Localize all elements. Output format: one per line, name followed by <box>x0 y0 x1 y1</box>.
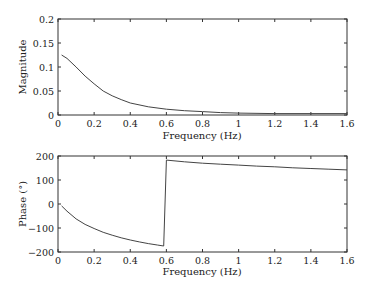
x-tick-label: 0.8 <box>195 118 210 129</box>
phase-plot: 00.20.40.60.811.21.41.6 −200−1000100200 … <box>17 151 355 278</box>
phase-curve <box>62 160 347 246</box>
y-axis-ticks: 00.050.10.150.2 <box>33 14 347 121</box>
x-tick-label: 0 <box>55 255 61 266</box>
x-tick-label: 0 <box>55 118 61 129</box>
plot-frame <box>58 19 347 115</box>
x-tick-label: 0.6 <box>159 255 174 266</box>
bode-figure: 00.20.40.60.811.21.41.6 00.050.10.150.2 … <box>0 0 374 293</box>
y-tick-label: 0 <box>48 110 54 121</box>
plot-frame <box>58 156 347 252</box>
x-axis-ticks: 00.20.40.60.811.21.41.6 <box>55 156 355 266</box>
y-tick-label: 100 <box>36 175 54 186</box>
y-tick-label: 0.1 <box>39 62 54 73</box>
x-tick-label: 1.4 <box>303 118 318 129</box>
x-tick-label: 1.6 <box>339 118 354 129</box>
magnitude-plot: 00.20.40.60.811.21.41.6 00.050.10.150.2 … <box>17 14 355 142</box>
x-tick-label: 1.4 <box>303 255 318 266</box>
magnitude-curve <box>62 55 347 114</box>
x-axis-label: Frequency (Hz) <box>162 266 241 277</box>
x-tick-label: 1 <box>236 118 242 129</box>
y-axis-ticks: −200−1000100200 <box>28 151 347 258</box>
x-axis-label: Frequency (Hz) <box>162 130 241 141</box>
x-tick-label: 1.6 <box>339 255 354 266</box>
x-tick-label: 1.2 <box>267 118 282 129</box>
x-tick-label: 1 <box>236 255 242 266</box>
x-tick-label: 0.6 <box>159 118 174 129</box>
x-tick-label: 1.2 <box>267 255 282 266</box>
y-axis-label: Phase (°) <box>17 181 28 227</box>
y-tick-label: −200 <box>28 247 54 258</box>
x-tick-label: 0.4 <box>123 255 138 266</box>
y-tick-label: 200 <box>36 151 54 162</box>
y-tick-label: 0.2 <box>39 14 54 25</box>
x-tick-label: 0.8 <box>195 255 210 266</box>
y-tick-label: −100 <box>28 223 54 234</box>
x-tick-label: 0.2 <box>87 255 102 266</box>
y-tick-label: 0.05 <box>33 86 54 97</box>
x-axis-ticks: 00.20.40.60.811.21.41.6 <box>55 19 355 129</box>
y-tick-label: 0.15 <box>33 38 54 49</box>
y-axis-label: Magnitude <box>17 39 28 94</box>
x-tick-label: 0.4 <box>123 118 138 129</box>
y-tick-label: 0 <box>48 199 54 210</box>
x-tick-label: 0.2 <box>87 118 102 129</box>
